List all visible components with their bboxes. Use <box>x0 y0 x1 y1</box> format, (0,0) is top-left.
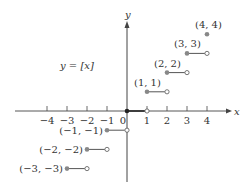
closed-point <box>125 109 130 114</box>
point-label: (2, 2) <box>154 58 181 69</box>
closed-point <box>205 32 210 37</box>
point-label: (4, 4) <box>195 19 222 30</box>
closed-point <box>85 147 90 152</box>
x-tick-label: −4 <box>40 115 55 126</box>
point-label: (−2, −2) <box>39 144 83 155</box>
closed-point <box>185 51 190 56</box>
open-point <box>125 128 129 132</box>
step-function-chart: −4−3−2−101234 (−3, −3)(−2, −2)(−1, −1)(1… <box>0 0 249 189</box>
x-axis-arrow-icon <box>226 109 232 114</box>
x-tick-label: 0 <box>120 115 126 126</box>
x-tick-label: 3 <box>184 115 190 126</box>
function-label: y = [x] <box>59 60 94 71</box>
closed-point <box>145 90 150 95</box>
x-tick-label: 2 <box>164 115 170 126</box>
x-tick-label: 4 <box>204 115 210 126</box>
open-point <box>85 167 89 171</box>
closed-point <box>65 166 70 171</box>
closed-point <box>165 70 170 75</box>
point-label: (−3, −3) <box>19 163 63 174</box>
point-label: (3, 3) <box>174 38 201 49</box>
x-axis-label: x <box>234 106 240 117</box>
point-label: (−1, −1) <box>59 125 103 136</box>
open-point <box>185 71 189 75</box>
x-ticks: −4−3−2−101234 <box>40 106 211 126</box>
point-label: (1, 1) <box>134 77 161 88</box>
open-point <box>145 109 149 113</box>
y-axis-arrow-icon <box>125 21 130 28</box>
closed-point <box>105 128 110 133</box>
open-point <box>205 51 209 55</box>
open-point <box>165 90 169 94</box>
step-segments: (−3, −3)(−2, −2)(−1, −1)(1, 1)(2, 2)(3, … <box>19 19 222 174</box>
x-tick-label: 1 <box>144 115 150 126</box>
open-point <box>105 147 109 151</box>
y-axis-label: y <box>124 9 131 20</box>
